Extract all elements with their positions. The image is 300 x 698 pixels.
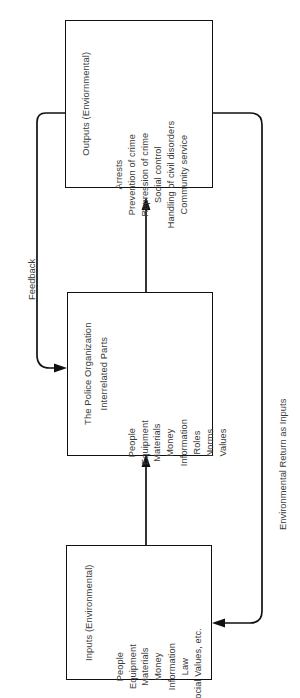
arrow-feedback-loop	[37, 113, 67, 373]
environmental-return-label: Environmental Return as Inputs	[277, 399, 288, 530]
police-organization-item: Values	[216, 293, 231, 455]
police-organization-box-subtitle: Interrelated Parts	[96, 293, 111, 455]
police-organization-box-title: The Police Organization	[81, 293, 96, 455]
inputs-box-title: Inputs (Environmental)	[81, 546, 96, 679]
inputs-box: Inputs (Environmental) People Equipment …	[66, 545, 212, 680]
police-organization-box: The Police Organization Interrelated Par…	[67, 292, 213, 456]
inputs-item: Social Values, etc.	[191, 546, 206, 679]
outputs-item: Community service	[177, 21, 192, 187]
feedback-label: Feedback	[26, 259, 37, 300]
outputs-box-title: Outputs (Enviornmental)	[78, 21, 93, 187]
arrow-inputs-to-police	[142, 454, 151, 545]
outputs-box: Outputs (Enviornmental) Arrests Preventi…	[65, 20, 213, 188]
system-flow-diagram: Outputs (Enviornmental) Arrests Preventi…	[0, 0, 300, 698]
